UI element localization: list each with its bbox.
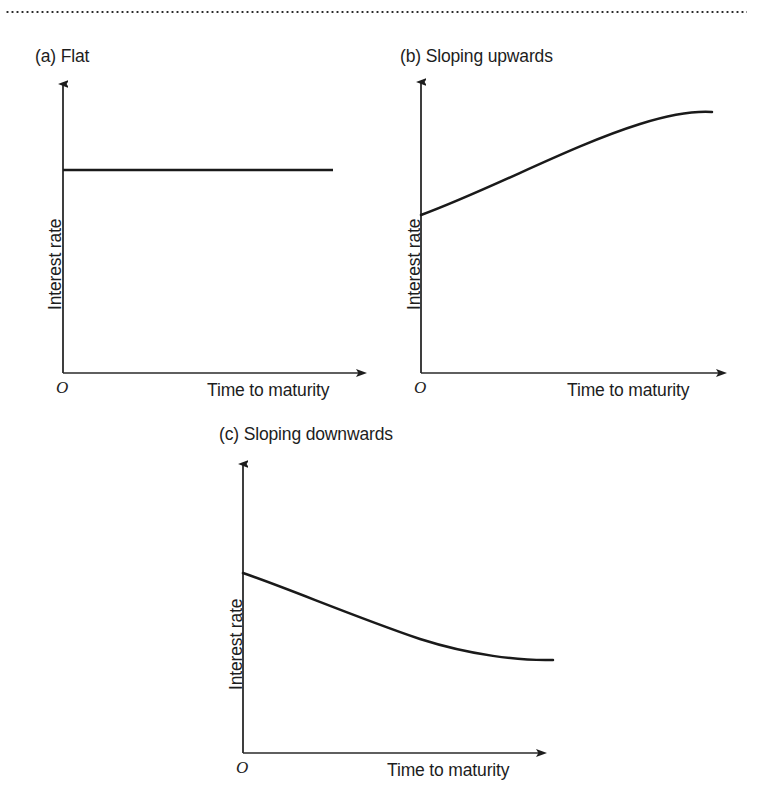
figure-root: (a) Flat Interest rate Time to maturity …: [0, 0, 765, 811]
plot-area-c: [0, 0, 765, 811]
chart-panel-c: (c) Sloping downwards Interest rate Time…: [0, 0, 765, 811]
yield-curve-c: [243, 573, 553, 660]
